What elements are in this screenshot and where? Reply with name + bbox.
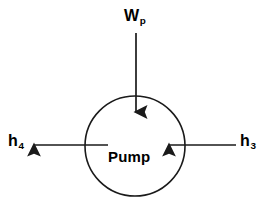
outlet-flow-label: h4: [8, 133, 24, 149]
pump-control-volume-circle: [85, 96, 185, 196]
inlet-flow-subscript: 3: [250, 140, 256, 151]
inlet-flow-symbol: h: [240, 132, 250, 149]
work-input-subscript: p: [140, 15, 146, 26]
pump-diagram-canvas: Wp h4 h3 Pump: [0, 0, 272, 206]
pump-component-label: Pump: [108, 149, 150, 164]
work-input-symbol: W: [124, 7, 139, 24]
work-input-label: Wp: [124, 8, 146, 24]
pump-diagram-graphics: [0, 0, 272, 206]
outlet-flow-subscript: 4: [18, 140, 24, 151]
outlet-flow-symbol: h: [8, 132, 18, 149]
inlet-flow-label: h3: [240, 133, 256, 149]
